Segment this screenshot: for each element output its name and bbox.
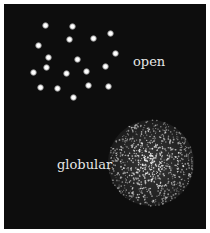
globular-cluster-label: globular: [57, 158, 112, 171]
globular-cluster: [4, 4, 206, 229]
star-cluster-figure: open globular: [4, 4, 206, 229]
